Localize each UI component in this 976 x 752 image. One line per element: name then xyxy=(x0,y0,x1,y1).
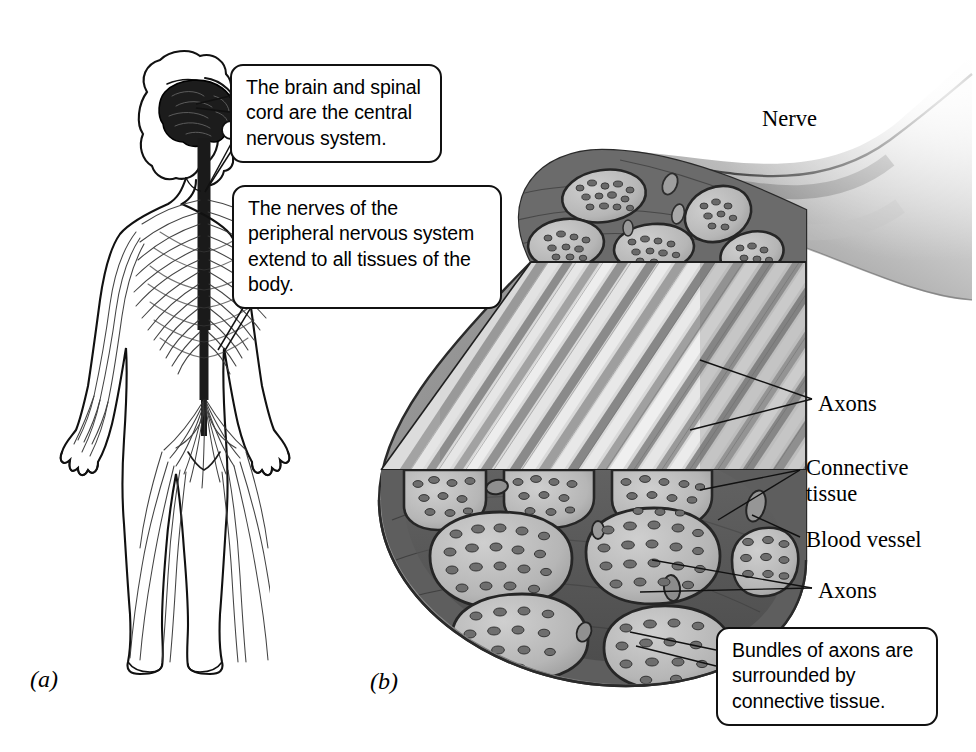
callout-peripheral-nervous-system: The nerves of the peripheral nervous sys… xyxy=(232,185,502,309)
figure-root: The brain and spinal cord are the centra… xyxy=(0,0,976,752)
leader-cns-b xyxy=(196,108,230,112)
leader-connective-a xyxy=(700,470,800,490)
panel-letter-b: (b) xyxy=(370,668,398,695)
leader-axons-cross-a xyxy=(652,560,812,588)
leader-cns-a xyxy=(196,96,230,104)
leader-axons-long-b xyxy=(690,399,812,430)
label-nerve: Nerve xyxy=(762,106,817,132)
callout-central-nervous-system: The brain and spinal cord are the centra… xyxy=(230,64,442,163)
panel-letter-a: (a) xyxy=(30,666,58,693)
leader-cns-d xyxy=(205,150,232,192)
callout-bundles-of-axons: Bundles of axons are surrounded by conne… xyxy=(716,627,938,726)
leader-axons-cross-b xyxy=(640,588,812,592)
leader-axons-long-a xyxy=(700,360,812,399)
leader-bundles-b xyxy=(636,646,716,666)
label-axons-longitudinal: Axons xyxy=(818,391,877,417)
label-axons-cross-section: Axons xyxy=(818,578,877,604)
leader-blood-vessel xyxy=(752,515,800,537)
leader-cns-c xyxy=(206,142,232,190)
label-connective-tissue: Connective tissue xyxy=(806,455,936,507)
label-connective-tissue-text: Connective tissue xyxy=(806,455,908,506)
label-blood-vessel: Blood vessel xyxy=(806,527,922,553)
